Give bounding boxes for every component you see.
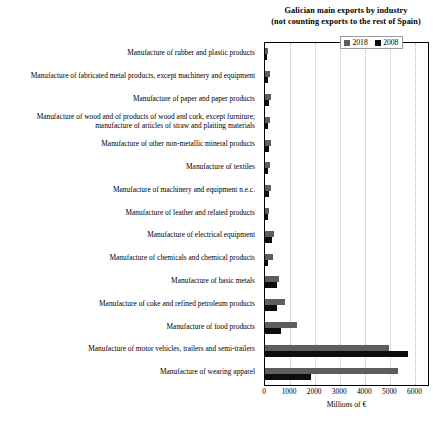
category-label: Manufacture of electrical equipment	[0, 231, 259, 240]
bar-2008	[265, 237, 272, 243]
bar-2008	[265, 214, 268, 220]
bar-group	[265, 225, 428, 248]
chart-legend: 20182008	[340, 36, 403, 49]
category-label: Manufacture of motor vehicles, trailers …	[0, 345, 259, 354]
category-label: Manufacture of food products	[0, 323, 259, 332]
bar-group	[265, 180, 428, 203]
bar-2008	[265, 351, 408, 357]
legend-swatch-2008	[375, 40, 381, 46]
bar-group	[265, 66, 428, 89]
bar-group	[265, 203, 428, 226]
legend-label: 2018	[353, 38, 368, 47]
bar-2008	[265, 146, 269, 152]
bar-2008	[265, 305, 277, 311]
x-tick-label: 2000	[307, 387, 322, 396]
bar-group	[265, 317, 428, 340]
x-tick-label: 1000	[282, 387, 297, 396]
bar-2008	[265, 260, 268, 266]
bar-2008	[265, 191, 269, 197]
x-tick-label: 6000	[407, 387, 422, 396]
category-label: Manufacture of textiles	[0, 163, 259, 172]
category-label: Manufacture of coke and refined petroleu…	[0, 300, 259, 309]
bar-2008	[265, 100, 269, 106]
chart-title-block: Galician main exports by industry (not c…	[262, 6, 430, 27]
bar-group	[265, 362, 428, 385]
legend-item-2018[interactable]: 2018	[344, 38, 368, 47]
bar-group	[265, 134, 428, 157]
legend-swatch-2018	[344, 40, 350, 46]
chart-container: Galician main exports by industry (not c…	[0, 0, 433, 429]
bar-2008	[265, 54, 267, 60]
bar-2008	[265, 77, 268, 83]
category-label: Manufacture of chemicals and chemical pr…	[0, 254, 259, 263]
category-label: Manufacture of leather and related produ…	[0, 209, 259, 218]
bar-group	[265, 89, 428, 112]
bar-2008	[265, 374, 311, 380]
bar-group	[265, 157, 428, 180]
bar-group	[265, 294, 428, 317]
category-label: Manufacture of machinery and equipment n…	[0, 186, 259, 195]
bar-rows	[265, 43, 428, 385]
bar-group	[265, 111, 428, 134]
bar-2008	[265, 168, 268, 174]
legend-label: 2008	[383, 38, 398, 47]
x-axis-ticks: 0100020003000400050006000	[264, 387, 429, 398]
chart-subtitle: (not counting exports to the rest of Spa…	[262, 17, 430, 28]
bar-group	[265, 271, 428, 294]
category-label: Manufacture of fabricated metal products…	[0, 72, 259, 81]
x-tick-label: 0	[262, 387, 266, 396]
category-label: Manufacture of paper and paper products	[0, 95, 259, 104]
x-tick-label: 5000	[382, 387, 397, 396]
category-label: Manufacture of rubber and plastic produc…	[0, 49, 259, 58]
legend-item-2008[interactable]: 2008	[375, 38, 399, 47]
bar-2008	[265, 282, 277, 288]
x-tick-label: 4000	[357, 387, 372, 396]
chart-title: Galician main exports by industry	[262, 6, 430, 17]
bar-2008	[265, 123, 268, 129]
plot-area	[264, 42, 429, 386]
x-axis-title: Millions of €	[264, 400, 429, 409]
category-label: Manufacture of wearing apparel	[0, 368, 259, 377]
bar-group	[265, 248, 428, 271]
category-axis-labels: Manufacture of rubber and plastic produc…	[0, 42, 259, 386]
x-tick-label: 3000	[332, 387, 347, 396]
bar-group	[265, 339, 428, 362]
category-label: Manufacture of basic metals	[0, 277, 259, 286]
category-label: Manufacture of wood and of products of w…	[0, 113, 259, 130]
bar-2008	[265, 328, 281, 334]
category-label: Manufacture of other non-metallic minera…	[0, 140, 259, 149]
